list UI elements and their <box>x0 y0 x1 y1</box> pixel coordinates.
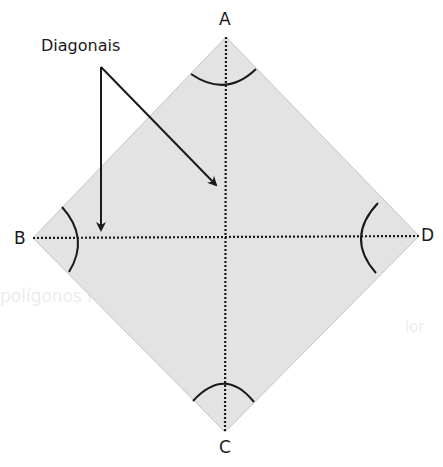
vertex-label-a: A <box>219 11 231 28</box>
diagonals-callout-label: Diagonais <box>41 36 120 55</box>
vertex-label-d: D <box>421 227 434 244</box>
vertex-label-c: C <box>219 439 231 456</box>
vertex-label-b: B <box>14 230 26 247</box>
square-diagonals-diagram <box>0 0 443 467</box>
